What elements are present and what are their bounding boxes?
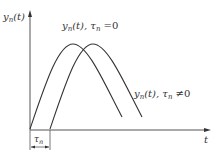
curve-delayed-label: yn(t), τn ≠0 bbox=[133, 88, 190, 101]
curve-undelayed bbox=[30, 44, 122, 129]
curve-undelayed-label: yn(t), τn =0 bbox=[61, 20, 118, 33]
x-axis-arrow-icon bbox=[204, 128, 211, 132]
x-axis-label: t bbox=[204, 134, 209, 145]
delay-diagram: yn(t) t yn(t), τn =0 yn(t), τn ≠0 τn bbox=[0, 0, 221, 160]
delay-arrow-right-icon bbox=[45, 146, 49, 149]
delay-arrow-left-icon bbox=[31, 146, 35, 149]
curve-delayed bbox=[50, 44, 142, 129]
y-axis-label: yn(t) bbox=[2, 11, 25, 24]
y-axis-arrow-icon bbox=[28, 10, 32, 17]
delay-label: τn bbox=[34, 134, 43, 146]
